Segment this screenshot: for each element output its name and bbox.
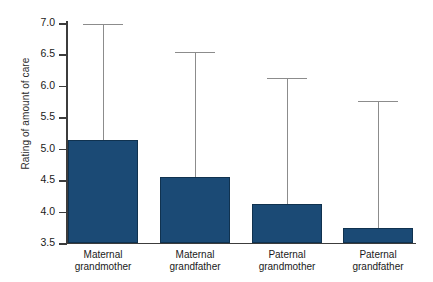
bar-paternal-grandmother	[252, 204, 322, 244]
y-axis-tick-label: 5.5	[15, 110, 55, 122]
y-axis-tick	[59, 117, 67, 119]
error-bar-stem	[195, 52, 196, 177]
error-bar-stem	[287, 78, 288, 204]
bar-maternal-grandfather	[160, 177, 230, 244]
bar-paternal-grandfather	[343, 228, 413, 243]
error-bar-stem	[378, 101, 379, 228]
category-label-line1: Maternal	[150, 249, 240, 261]
bar-maternal-grandmother	[68, 140, 138, 243]
y-axis-tick	[59, 23, 67, 25]
error-bar-stem	[103, 24, 104, 141]
y-axis-tick-label: 5.0	[15, 142, 55, 154]
y-axis-tick-label: 4.5	[15, 173, 55, 185]
x-axis-category-label: Paternal grandmother	[242, 249, 332, 272]
y-axis-tick-label: 3.5	[15, 236, 55, 248]
y-axis-tick	[59, 149, 67, 151]
y-axis-tick	[59, 54, 67, 56]
y-axis-tick	[59, 180, 67, 182]
y-axis-tick	[59, 212, 67, 214]
y-axis-tick-label: 4.0	[15, 205, 55, 217]
category-label-line1: Paternal	[242, 249, 332, 261]
bar-chart-figure: Rating of amount of care 7.0 6.5 6.0 5.5…	[0, 0, 433, 282]
category-label-line2: grandmother	[58, 261, 148, 273]
y-axis-tick-label: 6.0	[15, 79, 55, 91]
category-label-line2: grandmother	[242, 261, 332, 273]
y-axis-tick-label: 7.0	[15, 16, 55, 28]
x-axis-category-label: Paternal grandfather	[333, 249, 423, 272]
category-label-line1: Maternal	[58, 249, 148, 261]
y-axis-tick-label: 6.5	[15, 47, 55, 59]
category-label-line2: grandfather	[150, 261, 240, 273]
x-axis-category-label: Maternal grandmother	[58, 249, 148, 272]
category-label-line1: Paternal	[333, 249, 423, 261]
y-axis-tick	[59, 86, 67, 88]
category-label-line2: grandfather	[333, 261, 423, 273]
x-axis-category-label: Maternal grandfather	[150, 249, 240, 272]
y-axis-tick	[59, 243, 67, 245]
